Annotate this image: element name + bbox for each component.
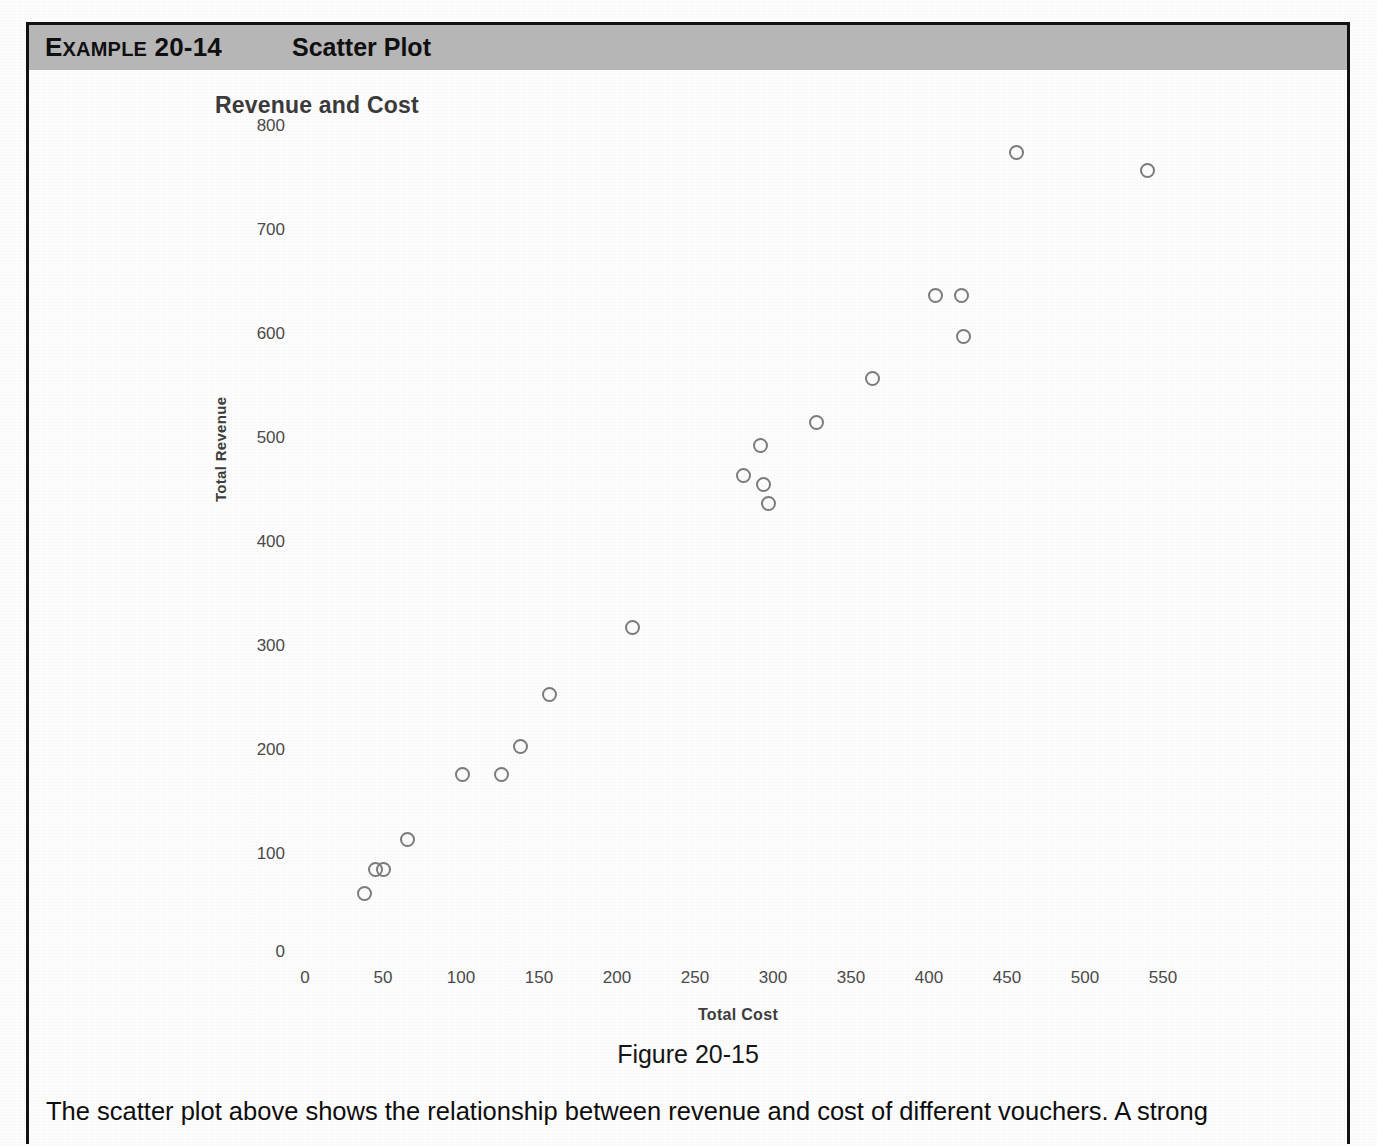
example-number: 20-14 bbox=[155, 32, 223, 62]
x-axis-tick-0: 0 bbox=[300, 968, 309, 988]
data-point bbox=[756, 477, 771, 492]
y-axis-tick-300: 300 bbox=[227, 636, 285, 656]
data-point bbox=[542, 687, 557, 702]
data-point bbox=[357, 886, 372, 901]
x-axis-tick-350: 350 bbox=[837, 968, 865, 988]
data-point bbox=[928, 288, 943, 303]
y-axis-tick-400: 400 bbox=[227, 532, 285, 552]
data-point bbox=[809, 415, 824, 430]
data-point bbox=[455, 767, 470, 782]
example-word-rest: XAMPLE bbox=[63, 38, 148, 60]
y-axis-title: Total Revenue bbox=[212, 397, 229, 502]
x-axis-tick-250: 250 bbox=[681, 968, 709, 988]
data-point bbox=[494, 767, 509, 782]
y-axis-tick-500: 500 bbox=[227, 428, 285, 448]
x-axis-tick-50: 50 bbox=[374, 968, 393, 988]
example-title: Scatter Plot bbox=[292, 33, 431, 62]
data-point bbox=[400, 832, 415, 847]
example-number-label: EXAMPLE 20-14 bbox=[45, 32, 222, 63]
y-axis-tick-labels: 100200300400500600700800 bbox=[227, 70, 285, 1040]
data-point bbox=[956, 329, 971, 344]
y-axis-tick-800: 800 bbox=[227, 116, 285, 136]
x-axis-tick-550: 550 bbox=[1149, 968, 1177, 988]
x-axis-tick-500: 500 bbox=[1071, 968, 1099, 988]
body-paragraph-line-1: The scatter plot above shows the relatio… bbox=[46, 1097, 1208, 1125]
y-axis-tick-100: 100 bbox=[227, 844, 285, 864]
data-point bbox=[736, 468, 751, 483]
example-word-first-letter: E bbox=[45, 32, 63, 62]
y-axis-origin-label: 0 bbox=[227, 942, 285, 962]
plot-area: 100200300400500600700800 050100150200250… bbox=[29, 70, 1347, 1040]
x-axis-tick-450: 450 bbox=[993, 968, 1021, 988]
figure-caption: Figure 20-15 bbox=[29, 1040, 1347, 1069]
x-axis-tick-150: 150 bbox=[525, 968, 553, 988]
data-point bbox=[865, 371, 880, 386]
data-point bbox=[954, 288, 969, 303]
x-axis-tick-400: 400 bbox=[915, 968, 943, 988]
x-axis-tick-300: 300 bbox=[759, 968, 787, 988]
body-paragraph: The scatter plot above shows the relatio… bbox=[46, 1092, 1336, 1130]
data-point bbox=[1140, 163, 1155, 178]
data-point bbox=[625, 620, 640, 635]
data-point bbox=[376, 862, 391, 877]
data-point bbox=[761, 496, 776, 511]
data-point bbox=[753, 438, 768, 453]
x-axis-tick-labels: 050100150200250300350400450500550 bbox=[29, 968, 1347, 994]
y-axis-tick-700: 700 bbox=[227, 220, 285, 240]
data-point bbox=[1009, 145, 1024, 160]
example-header-band: EXAMPLE 20-14 Scatter Plot bbox=[29, 25, 1347, 70]
x-axis-tick-200: 200 bbox=[603, 968, 631, 988]
scatter-chart: Revenue and Cost 10020030040050060070080… bbox=[29, 70, 1347, 1040]
x-axis-tick-100: 100 bbox=[447, 968, 475, 988]
data-point bbox=[513, 739, 528, 754]
y-axis-tick-200: 200 bbox=[227, 740, 285, 760]
y-axis-tick-600: 600 bbox=[227, 324, 285, 344]
x-axis-title: Total Cost bbox=[29, 1006, 1347, 1024]
